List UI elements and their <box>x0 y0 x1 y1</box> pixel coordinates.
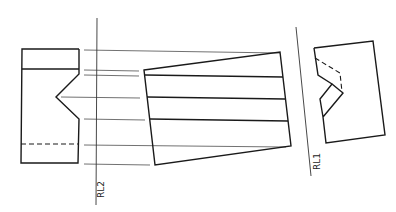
left-view <box>21 49 79 163</box>
projection-lines <box>61 50 286 165</box>
middle-view <box>144 52 291 165</box>
projection-drawing: RL2 RL1 <box>0 0 396 212</box>
reference-line-rl1 <box>296 27 311 176</box>
reference-line-rl2 <box>96 18 97 205</box>
rl1-label: RL1 <box>312 153 322 170</box>
right-view <box>314 41 385 143</box>
rl2-label: RL2 <box>96 181 106 198</box>
